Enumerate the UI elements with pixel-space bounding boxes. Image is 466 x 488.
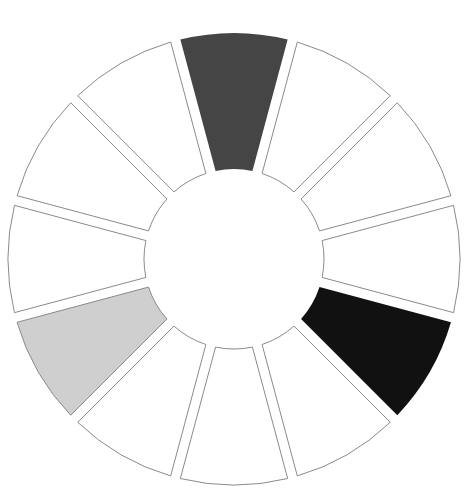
- wheel-hub: [145, 170, 323, 348]
- color-wheel-diagram: [0, 0, 466, 488]
